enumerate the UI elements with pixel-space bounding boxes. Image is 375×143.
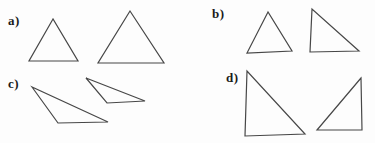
triangle-b-right [310, 9, 359, 52]
triangle-c-small-obtuse [86, 78, 145, 103]
triangle-d-small-right [317, 78, 362, 130]
triangle-a-large-isosceles [98, 11, 164, 63]
triangle-d-large-right [245, 71, 305, 136]
triangle-b-isosceles [247, 12, 292, 53]
triangle-worksheet: a) b) c) d) [0, 0, 375, 143]
triangle-c-large-obtuse [32, 87, 108, 123]
triangle-pairs-canvas [0, 0, 375, 143]
triangle-a-small-isosceles [29, 19, 78, 61]
